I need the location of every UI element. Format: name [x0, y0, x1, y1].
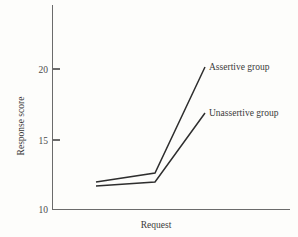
y-axis-title: Response score: [16, 97, 26, 156]
series-line-unassertive: [96, 113, 205, 186]
series-line-assertive: [96, 67, 205, 182]
series-label-assertive: Assertive group: [209, 62, 270, 72]
y-tick-label-20: 20: [39, 65, 49, 75]
line-chart-canvas: 20 15 10 Assertive group Unassertive gro…: [0, 0, 298, 237]
x-axis-title: Request: [141, 220, 172, 230]
chart-figure: 20 15 10 Assertive group Unassertive gro…: [0, 0, 298, 237]
series-label-unassertive: Unassertive group: [209, 108, 279, 118]
y-tick-label-10: 10: [39, 205, 49, 215]
y-tick-label-15: 15: [39, 136, 49, 146]
